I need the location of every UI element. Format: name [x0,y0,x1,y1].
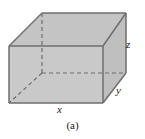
axis-label-z: z [126,39,130,50]
figure-caption: (a) [0,119,145,132]
box-front-face [9,46,103,103]
figure-container: x y z (a) [0,0,145,139]
axis-label-x: x [57,104,62,115]
axis-label-y: y [116,85,121,96]
